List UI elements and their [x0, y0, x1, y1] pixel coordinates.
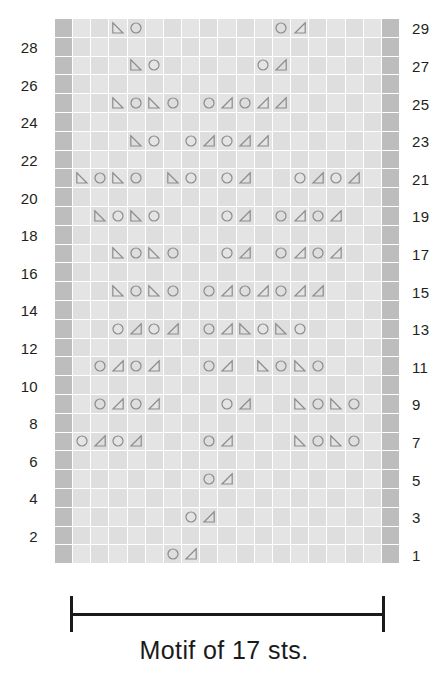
chart-edge-cell: [55, 19, 73, 38]
chart-stitch-cell: [128, 245, 146, 264]
chart-stitch-cell: [327, 301, 345, 320]
left-decrease-triangle-icon: [112, 247, 125, 260]
chart-edge-cell: [55, 132, 73, 151]
chart-stitch-cell: [346, 489, 364, 508]
chart-edge-cell: [55, 188, 73, 207]
chart-stitch-cell: [146, 169, 164, 188]
chart-edge-cell: [382, 169, 400, 188]
row-number-14: 14: [21, 303, 38, 318]
chart-stitch-cell: [291, 545, 309, 564]
yarn-over-circle-icon: [130, 397, 143, 410]
chart-stitch-cell: [146, 470, 164, 489]
row-number-19: 19: [412, 209, 429, 224]
chart-stitch-cell: [346, 207, 364, 226]
chart-edge-cell: [382, 376, 400, 395]
chart-edge-cell: [55, 320, 73, 339]
chart-stitch-cell: [237, 470, 255, 489]
chart-stitch-cell: [273, 151, 291, 170]
right-decrease-triangle-icon: [239, 172, 252, 185]
left-decrease-triangle-icon: [112, 172, 125, 185]
chart-stitch-cell: [182, 169, 200, 188]
chart-stitch-cell: [309, 508, 327, 527]
chart-stitch-cell: [327, 207, 345, 226]
chart-stitch-cell: [364, 508, 382, 527]
chart-stitch-cell: [237, 207, 255, 226]
chart-stitch-cell: [346, 470, 364, 489]
chart-stitch-cell: [146, 226, 164, 245]
chart-stitch-cell: [128, 169, 146, 188]
chart-stitch-cell: [364, 132, 382, 151]
right-decrease-triangle-icon: [184, 548, 197, 561]
chart-stitch-cell: [237, 414, 255, 433]
right-decrease-triangle-icon: [275, 59, 288, 72]
chart-stitch-cell: [364, 94, 382, 113]
chart-stitch-cell: [164, 357, 182, 376]
chart-stitch-cell: [91, 451, 109, 470]
chart-stitch-cell: [291, 188, 309, 207]
yarn-over-circle-icon: [75, 435, 88, 448]
chart-stitch-cell: [128, 263, 146, 282]
row-number-23: 23: [412, 134, 429, 149]
chart-row: [55, 282, 400, 301]
chart-stitch-cell: [346, 113, 364, 132]
chart-stitch-cell: [309, 94, 327, 113]
chart-stitch-cell: [255, 451, 273, 470]
chart-stitch-cell: [327, 113, 345, 132]
chart-stitch-cell: [309, 489, 327, 508]
chart-stitch-cell: [91, 320, 109, 339]
yarn-over-circle-icon: [220, 247, 233, 260]
chart-stitch-cell: [237, 489, 255, 508]
chart-stitch-cell: [128, 19, 146, 38]
chart-stitch-cell: [346, 508, 364, 527]
right-decrease-triangle-icon: [130, 322, 143, 335]
chart-stitch-cell: [346, 282, 364, 301]
chart-stitch-cell: [128, 151, 146, 170]
row-number-4: 4: [29, 491, 38, 506]
chart-stitch-cell: [273, 132, 291, 151]
chart-stitch-cell: [346, 38, 364, 57]
chart-stitch-cell: [200, 19, 218, 38]
chart-stitch-cell: [200, 433, 218, 452]
chart-stitch-cell: [200, 508, 218, 527]
chart-stitch-cell: [109, 19, 127, 38]
right-decrease-triangle-icon: [239, 247, 252, 260]
chart-stitch-cell: [327, 527, 345, 546]
chart-edge-cell: [382, 38, 400, 57]
chart-stitch-cell: [164, 301, 182, 320]
chart-stitch-cell: [273, 508, 291, 527]
chart-stitch-cell: [237, 357, 255, 376]
chart-stitch-cell: [109, 188, 127, 207]
chart-stitch-cell: [146, 113, 164, 132]
row-number-8: 8: [29, 416, 38, 431]
chart-row: [55, 527, 400, 546]
chart-stitch-cell: [182, 94, 200, 113]
chart-stitch-cell: [364, 489, 382, 508]
chart-stitch-cell: [109, 301, 127, 320]
chart-edge-cell: [55, 433, 73, 452]
left-decrease-triangle-icon: [112, 97, 125, 110]
yarn-over-circle-icon: [257, 322, 270, 335]
chart-stitch-cell: [218, 376, 236, 395]
chart-stitch-cell: [364, 282, 382, 301]
chart-stitch-cell: [327, 545, 345, 564]
chart-stitch-cell: [327, 357, 345, 376]
chart-stitch-cell: [364, 113, 382, 132]
left-decrease-triangle-icon: [329, 397, 342, 410]
right-decrease-triangle-icon: [239, 209, 252, 222]
chart-stitch-cell: [309, 19, 327, 38]
chart-stitch-cell: [146, 395, 164, 414]
chart-stitch-cell: [146, 151, 164, 170]
chart-stitch-cell: [164, 38, 182, 57]
chart-stitch-cell: [364, 151, 382, 170]
row-number-1: 1: [412, 548, 421, 563]
chart-stitch-cell: [346, 245, 364, 264]
yarn-over-circle-icon: [93, 172, 106, 185]
chart-stitch-cell: [237, 57, 255, 76]
chart-stitch-cell: [128, 339, 146, 358]
chart-stitch-cell: [128, 527, 146, 546]
chart-stitch-cell: [109, 320, 127, 339]
chart-stitch-cell: [237, 75, 255, 94]
chart-stitch-cell: [309, 433, 327, 452]
chart-stitch-cell: [128, 357, 146, 376]
chart-stitch-cell: [109, 451, 127, 470]
